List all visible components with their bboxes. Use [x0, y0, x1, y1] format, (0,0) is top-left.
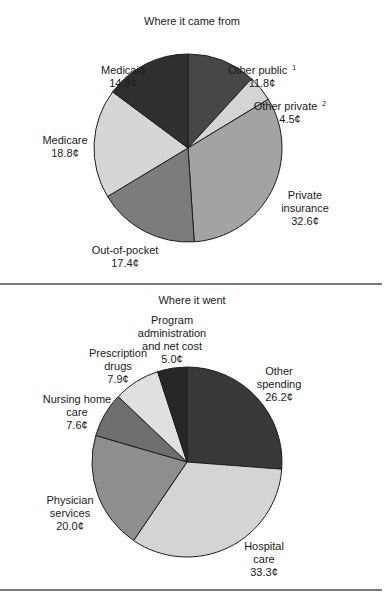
- slice-name: Nursing home: [43, 393, 111, 406]
- slice-name: care: [43, 406, 111, 419]
- slice-name: and net cost: [138, 340, 206, 353]
- slice-name: Hospital: [244, 540, 284, 553]
- slice-name: Other public 1: [228, 64, 296, 77]
- slice-name: Medicare: [42, 134, 87, 147]
- slice-value: 17.4¢: [92, 257, 159, 270]
- slice-label-hospital-care: Hospitalcare33.3¢: [244, 540, 284, 579]
- slice-value: 26.2¢: [257, 391, 302, 404]
- slice-name: Program: [138, 314, 206, 327]
- slice-label-nursing-home-care: Nursing homecare7.6¢: [43, 393, 111, 432]
- slice-label-other-spending: Otherspending26.2¢: [257, 365, 302, 404]
- slice-name: Medicaid: [101, 64, 145, 77]
- slice-name: care: [244, 553, 284, 566]
- slice-label-physician-services: Physicianservices20.0¢: [46, 494, 93, 533]
- slice-value: 33.3¢: [244, 566, 284, 579]
- slice-label-medicaid: Medicaid14.8¢: [101, 64, 145, 90]
- bottom-divider: [0, 589, 382, 591]
- slice-label-out-of-pocket: Out-of-pocket17.4¢: [92, 244, 159, 270]
- slice-name: Out-of-pocket: [92, 244, 159, 257]
- slice-value: 4.5¢: [254, 113, 327, 126]
- slice-name: Private: [281, 189, 329, 202]
- slice-name: insurance: [281, 202, 329, 215]
- slice-name: services: [46, 507, 93, 520]
- slice-value: 14.8¢: [101, 77, 145, 90]
- slice-name: Other: [257, 365, 302, 378]
- slice-value: 18.8¢: [42, 147, 87, 160]
- footnote-marker: 1: [290, 64, 296, 71]
- slice-name: Physician: [46, 494, 93, 507]
- slice-label-program-administration-and-net-cost: Programadministrationand net cost5.0¢: [138, 314, 206, 366]
- slice-label-medicare: Medicare18.8¢: [42, 134, 87, 160]
- footnote-marker: 2: [320, 100, 326, 107]
- slice-value: 20.0¢: [46, 520, 93, 533]
- pie-chart-spending: [92, 367, 282, 557]
- slice-value: 7.6¢: [43, 419, 111, 432]
- slice-label-other-public: Other public 111.8¢: [228, 64, 296, 90]
- slice-name: administration: [138, 327, 206, 340]
- slice-value: 32.6¢: [281, 215, 329, 228]
- section-divider: [0, 283, 382, 285]
- slice-label-other-private: Other private 24.5¢: [254, 100, 327, 126]
- slice-name: spending: [257, 378, 302, 391]
- slice-value: 5.0¢: [138, 353, 206, 366]
- slice-label-private-insurance: Privateinsurance32.6¢: [281, 189, 329, 228]
- slice-value: 11.8¢: [228, 77, 296, 90]
- slice-name: Other private 2: [254, 100, 327, 113]
- slice-value: 7.9¢: [89, 373, 147, 386]
